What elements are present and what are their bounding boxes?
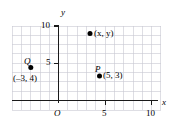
x-tick-label-5: 5 (102, 109, 107, 118)
point-label-p: (5, 3) (103, 71, 123, 80)
origin-label: O (54, 109, 61, 118)
y-axis-label: y (61, 8, 65, 17)
y-tick-label-10: 10 (41, 21, 50, 30)
point-name-p: P (95, 65, 101, 74)
coordinate-plane-figure: y x 10 5 5 10 O (x, y) Q (–3, 4) P (5, 3… (0, 0, 179, 131)
data-point-p[interactable] (97, 74, 102, 79)
data-point-xy[interactable] (88, 31, 93, 36)
point-name-q: Q (24, 57, 31, 66)
y-tick-label-5: 5 (46, 58, 51, 67)
point-label-q: (–3, 4) (13, 74, 37, 83)
x-axis-label: x (162, 98, 166, 107)
point-label-xy: (x, y) (94, 29, 114, 38)
grid-lines (12, 26, 161, 110)
data-points (28, 31, 102, 79)
x-tick-label-10: 10 (146, 109, 155, 118)
